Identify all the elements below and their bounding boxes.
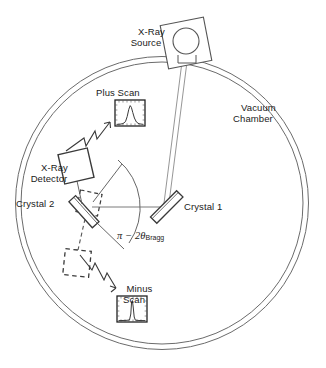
- crystal-2-label: Crystal 2: [16, 198, 54, 210]
- plus-scan-arrow: [66, 122, 111, 151]
- minus-scan-label: Minus Scan: [112, 271, 156, 317]
- figure-root: X-Ray Source Vacuum Chamber Plus Scan Mi…: [0, 0, 326, 368]
- bragg-angle-subscript: Bragg: [146, 234, 165, 241]
- xray-source-tube-circle: [173, 28, 199, 54]
- beam-crystal2-to-ghost-minus: [78, 219, 85, 250]
- crystal-1-label: Crystal 1: [184, 201, 222, 213]
- vacuum-chamber-label: Vacuum Chamber: [222, 90, 284, 136]
- plus-scan-plot: [115, 100, 145, 126]
- bragg-angle-label: π − 2θBragg: [106, 218, 164, 255]
- beam-source-to-crystal1: [164, 50, 189, 207]
- minus-scan-arrow: [80, 255, 116, 292]
- xray-detector-label: X-Ray Detector: [19, 150, 79, 196]
- plus-scan-label: Plus Scan: [96, 87, 140, 99]
- bragg-angle-expression: π − 2θ: [117, 230, 146, 241]
- xray-source-label: X-Ray Source: [120, 14, 172, 60]
